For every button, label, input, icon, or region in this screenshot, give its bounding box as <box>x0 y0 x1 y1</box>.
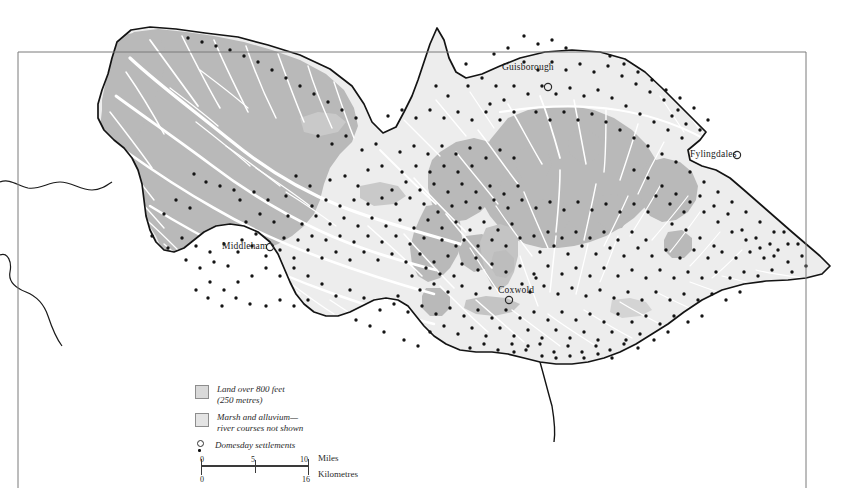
scale-tick-mid <box>255 460 256 467</box>
scale-miles-end: 10 <box>300 455 308 464</box>
legend-label-upland: Land over 800 feet (250 metres) <box>217 384 285 405</box>
legend-marsh-line1: Marsh and alluvium— <box>217 412 303 423</box>
open-circle-icon <box>197 440 204 447</box>
legend-swatch-upland <box>195 385 209 399</box>
scale-km-end: 16 <box>302 475 310 484</box>
place-label-guisborough: Guisborough <box>502 62 554 72</box>
legend-upland-line2: (250 metres) <box>217 395 285 406</box>
neighbouring-boundary <box>0 181 112 346</box>
map-canvas <box>0 0 844 488</box>
place-label-coxwold: Coxwold <box>498 285 534 295</box>
scale-unit-miles: Miles <box>318 453 339 463</box>
scale-tick-right <box>308 459 309 467</box>
legend-label-settlements: Domesday settlements <box>215 440 295 451</box>
scale-km-start: 0 <box>200 475 204 484</box>
legend-settlements-line1: Domesday settlements <box>215 440 295 451</box>
scale-tick-left <box>201 459 202 467</box>
scale-tick-right-km <box>308 467 309 475</box>
legend-marsh-line2: river courses not shown <box>217 423 303 434</box>
filled-dot-icon <box>198 449 201 452</box>
place-label-fylingdales: Fylingdales <box>690 149 737 159</box>
scale-tick-mid-km <box>255 467 256 473</box>
scale-bar: 0 5 10 0 16 Miles Kilometres <box>200 455 350 485</box>
legend-item-marsh: Marsh and alluvium— river courses not sh… <box>195 412 370 433</box>
legend-item-settlements: Domesday settlements <box>195 440 370 454</box>
legend-item-upland: Land over 800 feet (250 metres) <box>195 384 370 405</box>
legend-marker-settlement <box>195 440 207 454</box>
scale-tick-left-km <box>201 467 202 475</box>
map-figure: Guisborough Fylingdales Middleham Coxwol… <box>0 0 844 488</box>
legend-upland-line1: Land over 800 feet <box>217 384 285 395</box>
map-legend: Land over 800 feet (250 metres) Marsh an… <box>195 384 370 461</box>
legend-label-marsh: Marsh and alluvium— river courses not sh… <box>217 412 303 433</box>
place-label-middleham: Middleham <box>222 241 268 251</box>
legend-swatch-marsh <box>195 413 209 427</box>
scale-unit-kilometres: Kilometres <box>318 469 358 479</box>
